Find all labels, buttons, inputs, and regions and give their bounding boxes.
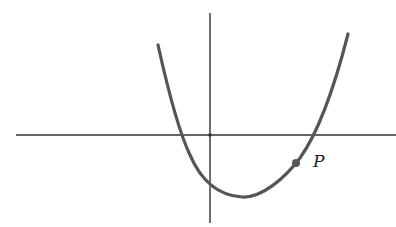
point-p-marker xyxy=(292,159,300,167)
parabola-graph xyxy=(0,0,396,227)
origin-dot xyxy=(208,133,212,137)
point-p-label: P xyxy=(313,151,324,171)
parabola-curve xyxy=(158,34,348,197)
